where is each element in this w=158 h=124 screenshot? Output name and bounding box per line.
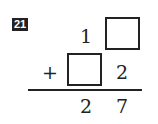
- answer-box-row1-ones[interactable]: [105, 17, 140, 50]
- problem-number-badge: 21: [12, 18, 28, 31]
- row1-tens-digit: 1: [80, 26, 92, 46]
- result-ones-digit: 7: [116, 96, 128, 116]
- sum-line: [28, 89, 142, 91]
- plus-operator: +: [42, 62, 58, 82]
- answer-box-row2-tens[interactable]: [67, 53, 102, 86]
- row2-ones-digit: 2: [116, 62, 128, 82]
- result-tens-digit: 2: [80, 96, 92, 116]
